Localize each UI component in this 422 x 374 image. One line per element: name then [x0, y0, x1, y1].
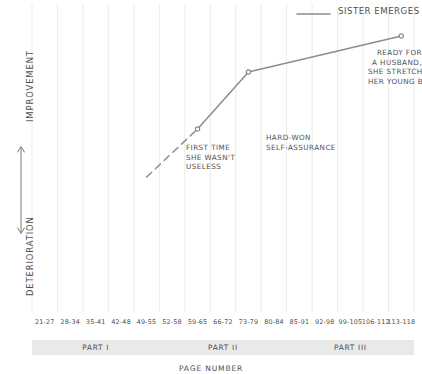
x-tick-label: 42-48 — [111, 318, 131, 328]
x-tick-label: 106-112 — [362, 318, 390, 328]
x-axis-title: PAGE NUMBER — [179, 364, 243, 374]
x-tick-label: 21-27 — [35, 318, 55, 328]
part-band-label: PART I — [82, 343, 109, 352]
x-tick-label: 73-79 — [239, 318, 259, 328]
x-tick-label: 92-98 — [315, 318, 335, 328]
y-axis-label-improvement: IMPROVEMENT — [26, 50, 36, 122]
x-tick-label: 52-58 — [162, 318, 182, 328]
x-tick-label: 49-55 — [137, 318, 157, 328]
part-bands: PART IPART IIPART III — [0, 340, 422, 356]
x-axis-tick-labels: 21-2728-3435-4142-4849-5552-5859-6566-72… — [0, 318, 422, 332]
chart-container: SISTER EMERGES IMPROVEMENT DETERIORATION… — [0, 0, 422, 374]
x-tick-label: 85-91 — [290, 318, 310, 328]
x-tick-label: 66-72 — [213, 318, 233, 328]
annotation-first-time: FIRST TIME SHE WASN'T USELESS — [186, 143, 235, 172]
x-tick-label: 59-65 — [188, 318, 208, 328]
y-axis: IMPROVEMENT DETERIORATION — [0, 0, 34, 312]
x-tick-label: 99-105 — [338, 318, 362, 328]
legend-item-label: SISTER EMERGES — [338, 7, 420, 17]
annotation-hard-won: HARD-WON SELF-ASSURANCE — [266, 133, 336, 152]
x-tick-label: 35-41 — [86, 318, 106, 328]
part-band-label: PART III — [334, 343, 367, 352]
annotation-ready-for-husband: READY FOR A HUSBAND, SHE STRETCHES HER Y… — [368, 48, 422, 86]
y-axis-label-deterioration: DETERIORATION — [26, 216, 36, 296]
part-band-label: PART II — [208, 343, 238, 352]
x-tick-label: 28-34 — [60, 318, 80, 328]
x-tick-label: 113-118 — [387, 318, 415, 328]
x-tick-label: 80-84 — [264, 318, 284, 328]
